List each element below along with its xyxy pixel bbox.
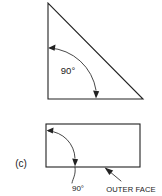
rectangle-arc-arrowhead-upper: [47, 127, 54, 133]
triangle-arc-arrowhead-lower: [93, 91, 99, 99]
engineering-diagram: 90° 90° OUTER FACE (c): [0, 0, 162, 196]
outer-face-label: OUTER FACE: [106, 185, 156, 194]
rectangle-angle-leader-line: [72, 167, 75, 183]
part-label: (c): [15, 158, 27, 169]
figure-container: 90° 90° OUTER FACE (c): [0, 0, 162, 196]
rectangle-angle-arc: [49, 131, 76, 158]
outer-face-callout: [105, 167, 121, 181]
rectangle-shape: [46, 124, 140, 167]
right-triangle-shape: [48, 3, 143, 99]
rectangle-angle-label: 90°: [72, 184, 84, 193]
rectangle-angle-arc-group: [47, 127, 79, 166]
rectangle-outline: [46, 124, 140, 167]
rectangle-arc-arrowhead-lower: [72, 159, 78, 167]
triangle-arc-arrowhead-upper: [48, 45, 55, 51]
triangle-outline: [48, 3, 143, 99]
triangle-angle-label: 90°: [61, 65, 76, 76]
